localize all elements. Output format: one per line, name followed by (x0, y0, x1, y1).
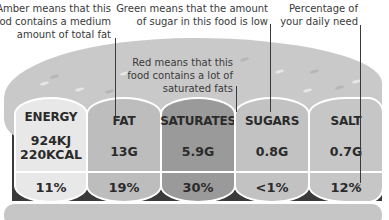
annotation-line: Red means that this (108, 56, 233, 69)
annotation-line: Amber means that this (0, 2, 111, 15)
nutrient-label: FAT (113, 114, 136, 128)
nutrient-percent: 11% (16, 173, 86, 201)
annotation-line: food contains a medium (0, 15, 111, 28)
nutrient-panel-sugars: SUGARS 0.8G <1% (234, 97, 310, 203)
nutrient-percent: 30% (162, 173, 234, 201)
nutrient-label: ENERGY (25, 110, 78, 124)
annotation-percentage: Percentage of your daily need (258, 2, 358, 28)
nutrient-value: 13G (110, 145, 138, 159)
annotation-amber: Amber means that this food contains a me… (0, 2, 111, 41)
annotation-red: Red means that this food contains a lot … (108, 56, 233, 95)
nutrient-label: SALT (331, 114, 362, 128)
nutrient-percent: 12% (310, 173, 382, 201)
annotation-line: saturated fats (108, 82, 233, 95)
annotation-line: amount of total fat (0, 28, 111, 41)
leader-line-red (236, 86, 237, 112)
annotation-green: Green means that the amount of sugar in … (108, 2, 268, 28)
annotation-line: your daily need (258, 15, 358, 28)
nutrient-panel-fat: FAT 13G 19% (86, 97, 162, 203)
annotation-line: food contains a lot of (108, 69, 233, 82)
nutrition-burger-diagram: ENERGY 924KJ 220KCAL 11% FAT 13G 19% SAT… (0, 0, 389, 220)
nutrient-panel-energy: ENERGY 924KJ 220KCAL 11% (14, 97, 88, 203)
nutrient-value: 5.9G (182, 145, 214, 159)
nutrient-percent: 19% (88, 173, 160, 201)
annotation-line: Percentage of (258, 2, 358, 15)
annotation-line: Green means that the amount (108, 2, 268, 15)
nutrient-label: SUGARS (245, 114, 299, 128)
nutrient-value: 924KJ 220KCAL (20, 134, 82, 162)
nutrient-percent: <1% (236, 173, 308, 201)
leader-line-green (270, 24, 271, 112)
nutrient-value-kcal: 220KCAL (20, 148, 82, 162)
nutrient-label: SATURATES (160, 114, 236, 128)
leader-line-percentage (360, 25, 361, 183)
nutrient-value-kj: 924KJ (20, 134, 82, 148)
nutrient-panel-saturates: SATURATES 5.9G 30% (160, 97, 236, 203)
nutrient-value: 0.8G (256, 145, 288, 159)
bottom-bun (4, 204, 382, 220)
annotation-line: of sugar in this food is low (108, 15, 268, 28)
nutrient-value: 0.7G (330, 145, 362, 159)
nutrient-panel-salt: SALT 0.7G 12% (308, 97, 384, 203)
